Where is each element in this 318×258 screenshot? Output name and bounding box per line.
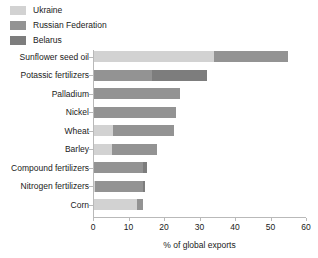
- bar-segment[interactable]: [143, 162, 147, 173]
- bar-segment[interactable]: [95, 181, 143, 192]
- bar-segment[interactable]: [137, 199, 143, 210]
- category-label: Potassic fertilizers: [21, 70, 90, 80]
- y-tick-mark: [89, 94, 93, 95]
- bar-chart: Sunflower seed oilPotassic fertilizersPa…: [0, 0, 318, 258]
- y-tick-mark: [89, 57, 93, 58]
- bar-row[interactable]: [93, 181, 145, 192]
- category-axis-labels: Sunflower seed oilPotassic fertilizersPa…: [0, 0, 89, 258]
- bar-segment[interactable]: [93, 144, 112, 155]
- category-label: Sunflower seed oil: [20, 52, 89, 62]
- bar-segment[interactable]: [93, 199, 137, 210]
- bar-segment[interactable]: [113, 125, 174, 136]
- bar-segment[interactable]: [93, 88, 180, 99]
- x-tick-label: 20: [149, 222, 179, 232]
- category-label: Nickel: [66, 107, 89, 117]
- bar-segment[interactable]: [214, 51, 289, 62]
- y-tick-mark: [89, 131, 93, 132]
- y-tick-mark: [89, 75, 93, 76]
- bar-segment[interactable]: [93, 162, 143, 173]
- x-tick-mark: [164, 218, 165, 221]
- bar-segment[interactable]: [152, 70, 207, 81]
- bar-row[interactable]: [93, 125, 174, 136]
- x-tick-label: 60: [291, 222, 318, 232]
- x-tick-label: 40: [220, 222, 250, 232]
- bar-row[interactable]: [93, 51, 288, 62]
- bar-segment[interactable]: [143, 181, 145, 192]
- bar-row[interactable]: [93, 199, 143, 210]
- x-tick-mark: [93, 218, 94, 221]
- x-tick-mark: [271, 218, 272, 221]
- bar-segment[interactable]: [112, 144, 157, 155]
- x-tick-label: 0: [78, 222, 108, 232]
- y-tick-mark: [89, 186, 93, 187]
- y-tick-mark: [89, 112, 93, 113]
- x-tick-mark: [129, 218, 130, 221]
- category-label: Barley: [65, 144, 89, 154]
- x-tick-label: 30: [185, 222, 215, 232]
- x-tick-label: 10: [114, 222, 144, 232]
- bar-segment[interactable]: [93, 70, 152, 81]
- bar-row[interactable]: [93, 162, 147, 173]
- y-tick-mark: [89, 205, 93, 206]
- y-tick-mark: [89, 149, 93, 150]
- y-axis-line: [93, 50, 94, 217]
- x-tick-mark: [235, 218, 236, 221]
- bar-segment[interactable]: [93, 107, 176, 118]
- bar-row[interactable]: [93, 70, 207, 81]
- category-label: Palladium: [52, 89, 89, 99]
- bar-segment[interactable]: [93, 51, 214, 62]
- x-tick-mark: [200, 218, 201, 221]
- category-label: Nitrogen fertilizers: [21, 181, 90, 191]
- category-label: Corn: [71, 200, 89, 210]
- x-axis-title: % of global exports: [93, 240, 306, 250]
- bar-row[interactable]: [93, 88, 180, 99]
- bar-segment[interactable]: [93, 125, 113, 136]
- x-tick-mark: [306, 218, 307, 221]
- bar-row[interactable]: [93, 107, 176, 118]
- bar-row[interactable]: [93, 144, 157, 155]
- x-tick-label: 50: [256, 222, 286, 232]
- category-label: Wheat: [64, 126, 89, 136]
- y-tick-mark: [89, 168, 93, 169]
- category-label: Compound fertilizers: [11, 163, 89, 173]
